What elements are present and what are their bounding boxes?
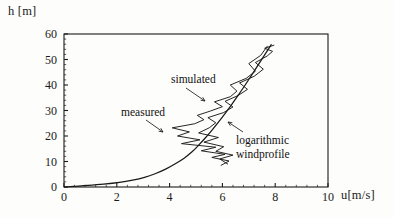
annotation-simulated: simulated: [171, 73, 216, 87]
annotation-logarithmic-windprofile: logarithmic windprofile: [236, 134, 290, 161]
y-tick-label: 10: [31, 155, 57, 170]
annotation-logprofile-line1: logarithmic: [236, 134, 290, 148]
y-tick-label: 20: [31, 129, 57, 144]
y-tick-label: 50: [31, 53, 57, 68]
plot-canvas: [0, 0, 394, 218]
plot-frame: [64, 34, 328, 187]
x-tick-label: 8: [264, 190, 286, 205]
y-tick-label: 30: [31, 104, 57, 119]
x-tick-label: 4: [159, 190, 181, 205]
annotation-logprofile-line2: windprofile: [236, 148, 290, 162]
x-tick-label: 2: [106, 190, 128, 205]
annotation-measured: measured: [121, 106, 165, 120]
x-axis-title: u[m/s]: [341, 188, 375, 203]
y-tick-label: 40: [31, 78, 57, 93]
x-tick-label: 6: [211, 190, 233, 205]
y-tick-label: 60: [31, 27, 57, 42]
x-tick-label: 10: [317, 190, 339, 205]
axis-ticks: [64, 34, 328, 187]
x-tick-label: 0: [53, 190, 75, 205]
data-series-group: [65, 45, 274, 187]
y-axis-title: h [m]: [8, 4, 36, 19]
wind-profile-figure: h [m] u[m/s] 0102030405060 0246810 simul…: [0, 0, 394, 218]
